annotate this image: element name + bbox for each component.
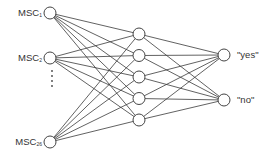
hidden-output-connection [139,55,224,99]
input-label-prefix: MSC [18,52,39,63]
ellipsis-dot [51,75,53,77]
hidden-output-connection [139,34,224,100]
input-hidden-connection [50,120,139,142]
ellipsis-dot [51,85,53,87]
input-label-subscript: 1 [39,12,42,18]
input-label-2: MSC2 [2,53,42,63]
input-label-subscript: 26 [36,141,42,147]
hidden-node [133,50,145,62]
input-label-prefix: MSC [18,7,39,18]
hidden-node [133,114,145,126]
output-label-no: "no" [237,95,254,105]
hidden-node [133,93,145,105]
hidden-output-connection [139,99,224,101]
ellipsis-dot [51,80,53,82]
input-label-prefix: MSC [15,136,36,147]
input-label-subscript: 2 [39,57,42,63]
ellipsis-dot [51,70,53,72]
input-hidden-connection [50,58,139,99]
hidden-node [133,71,145,83]
hidden-output-connection [139,77,224,100]
hidden-output-connection [139,55,224,56]
output-node [218,94,230,106]
hidden-output-connection [139,56,224,101]
input-label-26: MSC26 [2,137,42,147]
input-hidden-connection [50,13,139,120]
input-hidden-connection [50,34,139,142]
input-node [44,136,56,148]
neural-network-diagram [0,0,272,156]
input-hidden-connection [50,77,139,142]
input-hidden-connection [50,34,139,58]
output-node [218,49,230,61]
hidden-node [133,28,145,40]
input-label-1: MSC1 [2,8,42,18]
input-node [44,52,56,64]
input-hidden-connection [50,13,139,56]
hidden-output-connection [139,34,224,55]
input-hidden-connection [50,13,139,34]
input-hidden-connection [50,99,139,143]
hidden-output-connection [139,55,224,77]
input-node [44,7,56,19]
input-hidden-connection [50,56,139,143]
output-label-yes: "yes" [237,50,259,60]
